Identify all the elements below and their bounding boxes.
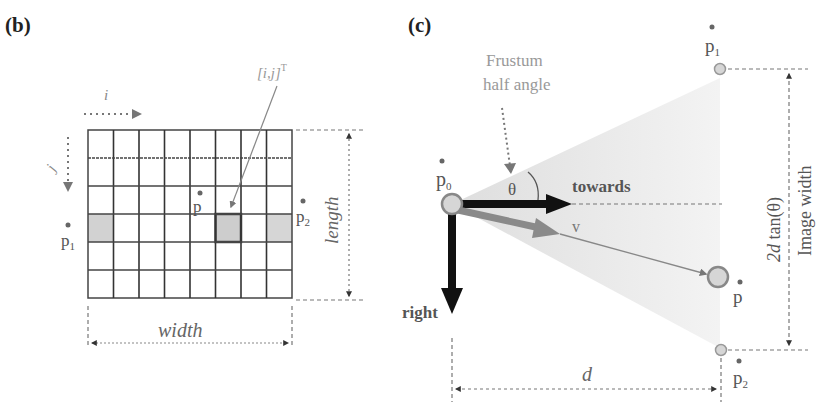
highlighted-cell-p1 bbox=[88, 214, 114, 242]
towards-label: towards bbox=[572, 177, 631, 196]
pixel-index-callout: [i,j]T bbox=[231, 62, 287, 207]
theta-label: θ bbox=[508, 180, 516, 199]
svg-text:half angle: half angle bbox=[483, 75, 551, 94]
right-label: right bbox=[402, 303, 438, 322]
width-label: width bbox=[158, 319, 202, 341]
panel-c: (c) Frustum half angle θ towards v bbox=[402, 13, 815, 402]
diagram-canvas: (b) i j bbox=[0, 0, 840, 408]
svg-text:p1: p1 bbox=[61, 231, 75, 252]
length-label: length bbox=[321, 197, 342, 245]
v-label: v bbox=[572, 218, 580, 235]
frustum-half-angle-label: Frustum half angle bbox=[483, 51, 551, 174]
panel-c-label: (c) bbox=[408, 13, 431, 37]
svg-text:p2: p2 bbox=[733, 367, 748, 390]
pixel-index-label: [i,j] bbox=[257, 65, 281, 81]
image-width-formula: 2d tan(θ) bbox=[764, 197, 785, 262]
right-arrow bbox=[441, 210, 463, 314]
svg-text:p2: p2 bbox=[296, 207, 310, 228]
svg-text:p1: p1 bbox=[705, 35, 720, 58]
point-p0: p0 bbox=[436, 159, 462, 215]
highlighted-cell-p2 bbox=[267, 214, 293, 242]
point-p2-frustum: p2 bbox=[716, 345, 749, 391]
j-axis-arrow: j bbox=[42, 137, 73, 192]
highlighted-cell-ij bbox=[216, 214, 242, 242]
point-p-grid: p bbox=[193, 191, 203, 217]
i-axis-label: i bbox=[104, 87, 108, 103]
length-dimension: length bbox=[296, 130, 366, 300]
frustum-region bbox=[452, 78, 720, 348]
svg-text:Frustum: Frustum bbox=[486, 51, 543, 70]
panel-b: (b) i j bbox=[5, 13, 366, 348]
point-p1-frustum: p1 bbox=[705, 25, 726, 75]
svg-text:p0: p0 bbox=[436, 168, 452, 192]
width-dimension: width bbox=[88, 306, 292, 348]
image-width-label: Image width bbox=[795, 166, 815, 256]
svg-text:p: p bbox=[733, 286, 743, 307]
image-width-dimension: 2d tan(θ) Image width bbox=[728, 69, 815, 350]
pixel-index-sup: T bbox=[281, 62, 287, 73]
i-axis-arrow: i bbox=[84, 87, 142, 119]
panel-b-label: (b) bbox=[5, 13, 31, 37]
pixel-grid bbox=[88, 130, 292, 298]
j-axis-label: j bbox=[42, 162, 59, 175]
svg-text:[i,j]T: [i,j]T bbox=[257, 62, 287, 81]
d-label: d bbox=[582, 363, 593, 385]
point-p1-grid: p1 bbox=[61, 223, 75, 253]
d-dimension: d bbox=[452, 338, 721, 402]
svg-text:p: p bbox=[193, 197, 202, 216]
point-p2-grid: p2 bbox=[296, 199, 310, 229]
